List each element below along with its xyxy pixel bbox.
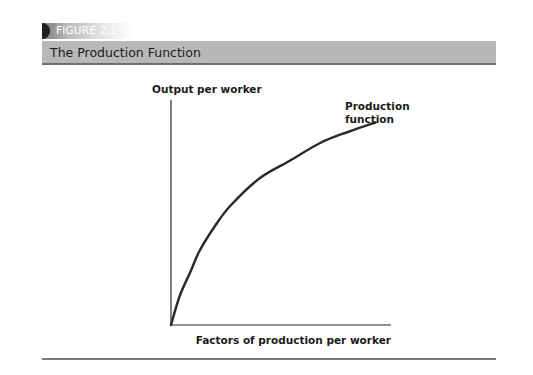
bottom-divider xyxy=(42,358,496,360)
curve-label-line-1: Production xyxy=(345,100,410,112)
x-axis-label: Factors of production per worker xyxy=(196,334,392,346)
curve-label-line-2: function xyxy=(345,113,394,125)
production-function-chart: Output per worker Production function Fa… xyxy=(0,0,533,375)
production-function-curve xyxy=(171,123,376,326)
y-axis-label: Output per worker xyxy=(152,83,262,95)
